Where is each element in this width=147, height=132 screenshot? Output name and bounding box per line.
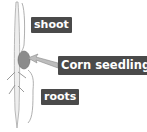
seed-shape <box>18 51 30 69</box>
shoot-bracket <box>21 3 25 52</box>
root-branch <box>9 85 15 94</box>
arrow-icon <box>28 54 58 68</box>
shoot-label: shoot <box>31 17 72 33</box>
roots-label: roots <box>41 89 79 105</box>
roots-bracket <box>28 70 33 123</box>
root-branch <box>7 72 15 80</box>
corn-seedling-label: Corn seedling <box>58 56 147 75</box>
